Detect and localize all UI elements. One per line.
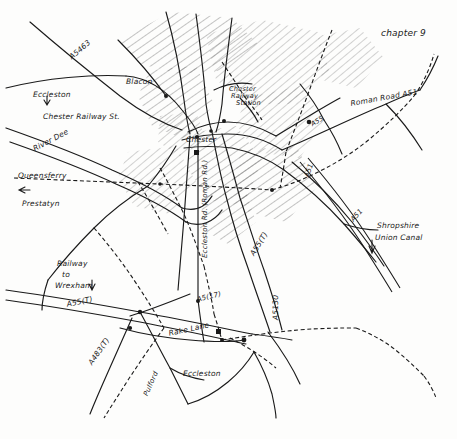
annotation-wrexham: Wrexham xyxy=(55,282,92,291)
annotation-to: to xyxy=(62,271,70,280)
place-label-chester: Chester xyxy=(186,136,217,145)
place-label-blacon: Blacon xyxy=(126,78,153,87)
urban-hatched-areas xyxy=(118,12,384,244)
place-label-eccleston: Eccleston xyxy=(183,370,221,379)
map-drawing xyxy=(0,0,457,439)
road-label-eccleston-rd-roman-rd: Eccleston Rd. (Roman Rd.) xyxy=(201,160,209,258)
chapter-label: chapter 9 xyxy=(381,28,426,38)
road-label-a5130: A5130 xyxy=(272,295,281,320)
annotation-eccleston: Eccleston xyxy=(33,91,71,100)
station-label-line3: Station xyxy=(236,100,261,108)
annotation-shropshire: Shropshire xyxy=(377,222,419,231)
annotation-railway: Railway xyxy=(57,260,88,269)
sketch-map-canvas: chapter 9 Blacon Chester Chester Railway… xyxy=(0,0,457,439)
place-label-prestatyn: Prestatyn xyxy=(22,200,60,209)
annotation-chester-railway-st: Chester Railway St. xyxy=(43,113,120,122)
place-label-queensferry: Queensferry xyxy=(18,172,67,181)
annotation-union-canal: Union Canal xyxy=(375,234,423,243)
